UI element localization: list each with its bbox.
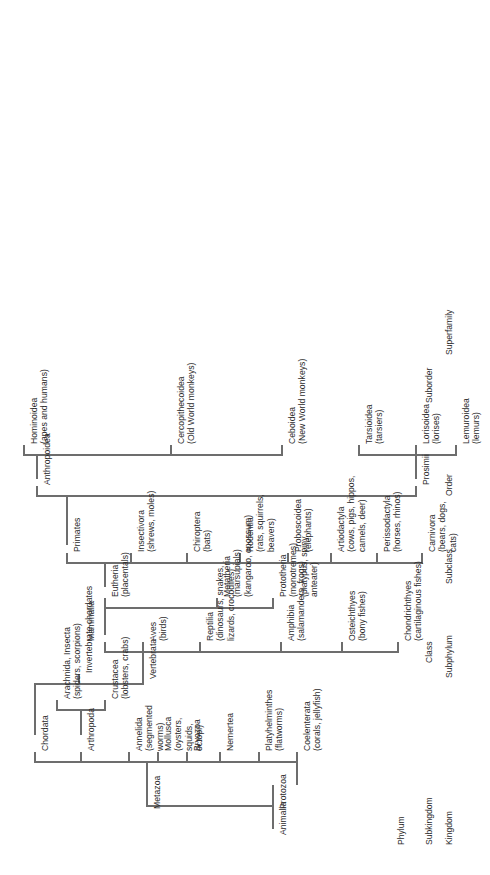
node-nemertea[interactable]: Nemertea <box>225 713 235 751</box>
edge-class-amphibia <box>280 642 282 653</box>
edge-class-osteichthyes <box>341 642 343 653</box>
edge-arachnida-insecta <box>56 700 58 711</box>
node-osteichthyes[interactable]: Osteichthyes (bony fishes) <box>347 591 368 641</box>
node-cercopithecoidea[interactable]: Cercopithecoidea (Old World monkeys) <box>176 363 197 445</box>
node-ceboidea[interactable]: Ceboidea (New World monkeys) <box>287 359 308 444</box>
rank-label-class: Class <box>424 642 434 664</box>
node-rodentia[interactable]: Rodentia (rats, squirrels, beavers) <box>245 494 276 552</box>
rank-label-subphylum: Subphylum <box>444 635 454 678</box>
node-chondrichthyes[interactable]: Chondrichthyes (cartilaginous fishes) <box>403 561 424 641</box>
node-vertebrata[interactable]: Vertebrata <box>148 639 158 679</box>
edge-prosimii-bracket <box>358 454 456 456</box>
rank-label-order: Order <box>444 474 454 496</box>
node-insectivora[interactable]: Insectivora (shrews, moles) <box>136 491 157 552</box>
node-tarsioidea[interactable]: Tarsioidea (tarsiers) <box>364 404 385 444</box>
edge-metazoa-to-spine <box>146 762 148 785</box>
edge-phylum-mollusca <box>157 752 159 763</box>
node-annelida[interactable]: Annelida (segmented worms) <box>134 705 165 751</box>
node-lemuroidea[interactable]: Lemuroidea (lemurs) <box>461 398 482 444</box>
node-carnivora[interactable]: Carnivora (bears, dogs, cats) <box>427 501 458 552</box>
rank-label-suborder: Suborder <box>424 368 434 403</box>
edge-phylum-platyhelminthes <box>258 752 260 763</box>
edge-phylum-arthropoda <box>80 752 82 763</box>
node-arthropoda[interactable]: Arthropoda <box>86 708 96 751</box>
edge-class-reptilia <box>199 642 201 653</box>
edge-class-spine <box>142 651 397 653</box>
node-proboscoidea[interactable]: Proboscoidea (elephants) <box>293 499 314 552</box>
node-arachnida-insecta[interactable]: Arachnida, Insecta (spiders, scorpions) <box>62 623 83 699</box>
edge-class-chondrichthyes <box>397 642 399 653</box>
rank-label-superfamily: Superfamily <box>444 310 454 355</box>
node-chiroptera[interactable]: Chiroptera (bats) <box>192 511 213 552</box>
node-coelenterata[interactable]: Coelenterata (corals, jellyfish) <box>302 688 323 751</box>
node-platyhelminthes[interactable]: Platyhelminthes (flatworms) <box>264 690 285 751</box>
edge-arthropoda-stem <box>80 711 82 735</box>
edge-mammalia-stem <box>104 608 106 635</box>
node-perissodactyla[interactable]: Perissodactyla (horses, rhinos) <box>382 492 403 553</box>
rank-label-subkingdom: Subkingdom <box>424 797 434 845</box>
edge-phylum-chordata <box>34 752 36 763</box>
edge-suborder-anthropoidea <box>36 486 38 497</box>
node-lorisoidea[interactable]: Lorisoidea (lorises) <box>421 404 442 444</box>
rotated-diagram-canvas: Kingdom Subkingdom Phylum Subphylum Clas… <box>0 0 490 875</box>
edge-superfamily-ceboidea <box>281 445 283 456</box>
edge-prosimii-stem <box>415 455 417 479</box>
node-aves[interactable]: Aves (birds) <box>148 616 169 641</box>
edge-superfamily-lemuroidea <box>455 445 457 456</box>
node-chordata[interactable]: Chordata <box>40 715 50 751</box>
edge-order-artiodactyla <box>330 553 332 564</box>
edge-eutheria-to-order-spine <box>104 563 106 587</box>
edge-subclass-bracket <box>104 607 272 609</box>
edge-superfamily-tarsioidea <box>358 445 360 456</box>
edge-subclass-eutheria <box>104 598 106 609</box>
edge-vertebrata-to-class-spine <box>142 652 144 674</box>
edge-subkingdom-bracket <box>146 805 274 807</box>
rank-label-kingdom: Kingdom <box>444 811 454 845</box>
node-protozoa[interactable]: Protozoa <box>278 774 288 809</box>
taxonomy-diagram-page: Kingdom Subkingdom Phylum Subphylum Clas… <box>0 0 490 875</box>
node-artiodactyla[interactable]: Artiodactyla (cows, pigs, hippos, camels… <box>336 476 367 552</box>
edge-metazoa <box>146 785 148 807</box>
edge-suborder-prosimii <box>415 486 417 497</box>
edge-protozoa-drop <box>272 761 297 763</box>
edge-vertebrata <box>142 674 144 685</box>
edge-superfamily-hominoidea <box>23 445 25 456</box>
edge-anthropoidea-stem <box>36 455 38 479</box>
edge-protozoa-to-coelenterata <box>296 762 298 785</box>
edge-chordata-stem <box>34 685 36 735</box>
edge-crustacea <box>104 700 106 711</box>
edge-phylum-bryozoa <box>186 752 188 763</box>
node-mammalia[interactable]: Mammalia <box>86 601 96 641</box>
edge-anthropoidea-bracket <box>23 454 281 456</box>
edge-phylum-nemertea <box>219 752 221 763</box>
node-crustacea[interactable]: Crustacea (lobsters, crabs) <box>110 637 131 699</box>
edge-order-chiroptera <box>186 553 188 564</box>
node-metazoa[interactable]: Metazoa <box>152 776 162 809</box>
node-prosimii[interactable]: Prosimii <box>421 454 431 485</box>
edge-phylum-annelida <box>128 752 130 763</box>
edge-primates-stem <box>66 496 68 545</box>
node-eutheria[interactable]: Eutheria (placentals) <box>110 552 131 597</box>
edge-phylum-coelenterata <box>296 752 298 763</box>
edge-superfamily-lorisoidea <box>415 445 417 456</box>
node-hominoidea[interactable]: Hominoidea (apes and humans) <box>29 369 50 444</box>
edge-order-primates <box>66 553 68 564</box>
node-mollusca[interactable]: Mollusca (oysters, squids, octopi) <box>163 717 205 751</box>
edge-subclass-prototheria <box>272 598 274 609</box>
rank-label-subclass: Subclass <box>444 549 454 584</box>
node-primates[interactable]: Primates <box>72 518 82 552</box>
edge-superfamily-cercopithecoidea <box>170 445 172 456</box>
edge-arthropoda-bracket <box>56 709 104 711</box>
edge-protozoa <box>272 785 274 807</box>
edge-phylum-spine <box>34 761 296 763</box>
rank-label-phylum: Phylum <box>396 816 406 845</box>
edge-animalia-stem <box>272 807 274 829</box>
